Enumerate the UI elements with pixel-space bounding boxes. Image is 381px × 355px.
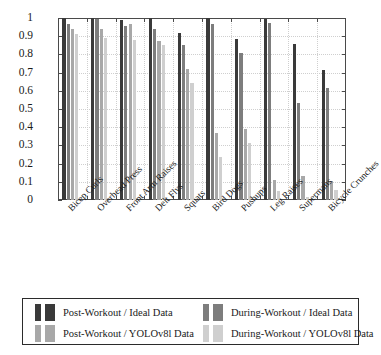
y-tick-label: 0.8 <box>0 48 33 60</box>
bar <box>244 129 247 200</box>
x-tick-mark <box>144 196 145 200</box>
legend-row-1: Post-Workout / Ideal Data During-Workout… <box>23 301 358 323</box>
legend-label: During-Workout / Ideal Data <box>231 307 352 318</box>
bar <box>182 45 185 200</box>
bar <box>133 40 136 200</box>
y-tick-mark <box>342 200 346 201</box>
x-gridline <box>202 18 203 200</box>
bar <box>235 39 238 200</box>
bar <box>306 197 309 200</box>
y-tick-label: 0.2 <box>0 158 33 170</box>
y-tick-mark <box>342 54 346 55</box>
bar <box>157 41 160 200</box>
bar <box>293 44 296 200</box>
plot-area <box>58 18 346 200</box>
bar <box>239 53 242 200</box>
y-tick-label: 0.1 <box>0 176 33 188</box>
x-tick-mark <box>116 18 117 22</box>
bar <box>95 19 98 200</box>
bar <box>326 88 329 200</box>
y-tick-label: 0.7 <box>0 67 33 79</box>
x-tick-mark <box>260 196 261 200</box>
y-tick-mark <box>342 182 346 183</box>
y-tick-mark <box>342 36 346 37</box>
bar <box>91 18 94 200</box>
bar <box>297 103 300 200</box>
legend-entry-during-workout-yolov8l: During-Workout / YOLOv8l Data <box>203 322 374 344</box>
y-tick-mark <box>342 145 346 146</box>
bar <box>153 29 156 200</box>
x-tick-mark <box>260 18 261 22</box>
legend-swatch-icon <box>203 304 225 321</box>
y-tick-mark <box>342 73 346 74</box>
x-gridline <box>116 18 117 200</box>
legend-swatch-icon <box>35 325 57 342</box>
bar <box>264 19 267 200</box>
x-gridline <box>144 18 145 200</box>
bar <box>186 69 189 200</box>
y-tick-label: 0.9 <box>0 30 33 42</box>
x-tick-mark <box>144 18 145 22</box>
legend-row-2: Post-Workout / YOLOv8l Data During-Worko… <box>23 322 358 344</box>
y-tick-label: 0.3 <box>0 139 33 151</box>
legend-entry-during-workout-ideal: During-Workout / Ideal Data <box>203 301 352 323</box>
x-tick-mark <box>87 196 88 200</box>
bar <box>124 26 127 200</box>
bar <box>248 143 251 200</box>
bar <box>71 29 74 200</box>
y-tick-mark <box>58 200 62 201</box>
bar <box>100 29 103 200</box>
chart-figure: 10.90.80.70.60.50.40.30.20.10 Bicep Curl… <box>0 0 381 355</box>
y-tick-label: 0.4 <box>0 121 33 133</box>
y-tick-mark <box>342 127 346 128</box>
bar <box>104 38 107 200</box>
x-tick-mark <box>116 196 117 200</box>
bar <box>178 33 181 200</box>
bar <box>206 18 209 200</box>
bar <box>268 23 271 200</box>
bar <box>129 24 132 200</box>
bar <box>330 181 333 200</box>
bar <box>75 34 78 200</box>
y-tick-label: 0 <box>0 194 33 206</box>
x-gridline <box>231 18 232 200</box>
x-tick-mark <box>231 18 232 22</box>
y-tick-mark <box>342 91 346 92</box>
bar <box>215 133 218 200</box>
y-tick-label: 0.5 <box>0 103 33 115</box>
legend-entry-post-workout-yolov8l: Post-Workout / YOLOv8l Data <box>35 322 194 344</box>
y-tick-mark <box>342 18 346 19</box>
x-tick-mark <box>317 196 318 200</box>
x-tick-mark <box>288 18 289 22</box>
bar <box>322 70 325 200</box>
x-tick-mark <box>202 18 203 22</box>
y-tick-label: 0.6 <box>0 85 33 97</box>
bar <box>277 191 280 200</box>
x-gridline <box>288 18 289 200</box>
x-gridline <box>260 18 261 200</box>
x-tick-mark <box>288 196 289 200</box>
x-tick-mark <box>87 18 88 22</box>
bar <box>301 176 304 200</box>
bar <box>62 18 65 200</box>
bar <box>149 18 152 200</box>
legend-label: During-Workout / YOLOv8l Data <box>231 328 374 339</box>
x-tick-mark <box>317 18 318 22</box>
x-tick-mark <box>173 196 174 200</box>
bar <box>67 24 70 200</box>
chart-legend: Post-Workout / Ideal Data During-Workout… <box>22 298 359 345</box>
x-gridline <box>317 18 318 200</box>
bar <box>190 83 193 200</box>
bar <box>273 180 276 200</box>
bar <box>334 190 337 200</box>
x-tick-mark <box>231 196 232 200</box>
x-gridline <box>87 18 88 200</box>
y-tick-label: 1 <box>0 12 33 24</box>
legend-swatch-icon <box>35 304 57 321</box>
bar <box>211 24 214 200</box>
legend-swatch-icon <box>203 325 225 342</box>
legend-entry-post-workout-ideal: Post-Workout / Ideal Data <box>35 301 173 323</box>
bar <box>120 20 123 200</box>
x-gridline <box>173 18 174 200</box>
y-tick-mark <box>342 109 346 110</box>
